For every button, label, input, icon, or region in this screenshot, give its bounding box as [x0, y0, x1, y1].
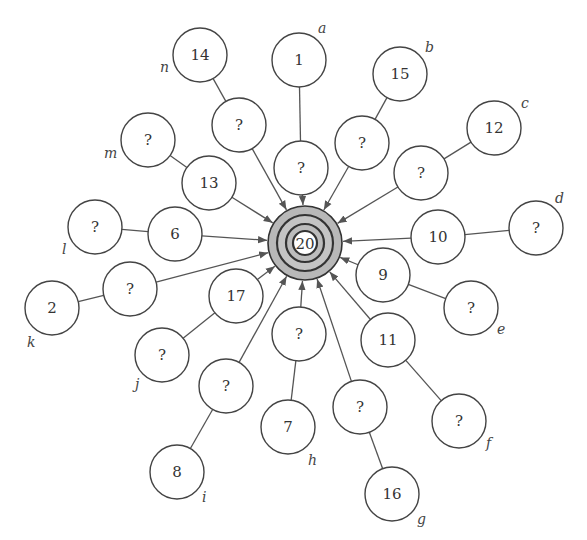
graph-node-nd[interactable]: ? — [509, 201, 563, 255]
arrow-inc-to-hub — [338, 187, 398, 223]
letter-label-n: n — [160, 59, 169, 75]
graph-node-n13[interactable]: 13 — [182, 156, 236, 210]
graph-node-n1[interactable]: 1 — [272, 33, 326, 87]
letter-label-e: e — [497, 321, 505, 337]
graph-node-n7[interactable]: 7 — [261, 400, 315, 454]
letter-label-m: m — [104, 145, 117, 161]
node-label: 1 — [294, 51, 304, 69]
node-label: 8 — [172, 463, 182, 481]
edge-nm-n13 — [170, 156, 187, 168]
graph-node-inb[interactable]: ? — [335, 116, 389, 170]
node-label: ? — [235, 116, 243, 134]
arrow-n9-to-hub — [340, 257, 358, 264]
arrow-n17-to-hub — [257, 266, 274, 279]
edge-n8-ini — [190, 409, 212, 448]
graph-node-n10[interactable]: 10 — [411, 210, 465, 264]
node-label: ? — [91, 218, 99, 236]
graph-node-n17[interactable]: 17 — [209, 269, 263, 323]
graph-node-inh[interactable]: ? — [272, 307, 326, 361]
graph-node-n11[interactable]: 11 — [361, 313, 415, 367]
graph-node-ini[interactable]: ? — [199, 359, 253, 413]
edge-ne-n9 — [408, 284, 445, 298]
node-label: ? — [295, 325, 303, 343]
edge-nd-n10 — [465, 230, 509, 234]
graph-node-inc[interactable]: ? — [394, 146, 448, 200]
graph-node-ne[interactable]: ? — [444, 281, 498, 335]
node-label: ? — [126, 280, 134, 298]
node-label: ? — [297, 159, 305, 177]
graph-node-n9[interactable]: 9 — [356, 248, 410, 302]
graph-node-n12[interactable]: 12 — [467, 101, 521, 155]
edge-n12-inc — [444, 142, 471, 159]
node-label: ? — [158, 346, 166, 364]
arrow-n10-to-hub — [343, 238, 411, 241]
node-label: 17 — [226, 287, 245, 305]
node-label: ? — [455, 412, 463, 430]
letter-label-k: k — [27, 334, 35, 350]
letter-label-i: i — [202, 489, 206, 505]
node-label: 7 — [283, 418, 293, 436]
node-label: 16 — [382, 485, 401, 503]
graph-node-nl[interactable]: ? — [68, 200, 122, 254]
graph-node-nf[interactable]: ? — [432, 394, 486, 448]
graph-node-inn[interactable]: ? — [212, 98, 266, 152]
hub-node[interactable]: 20 — [268, 206, 342, 280]
node-label: 13 — [199, 174, 218, 192]
edge-nl-n6 — [122, 229, 148, 231]
graph-node-nj[interactable]: ? — [135, 328, 189, 382]
letter-label-l: l — [62, 241, 66, 257]
node-label: 10 — [428, 228, 447, 246]
letter-label-h: h — [308, 452, 317, 468]
hub-graph-diagram: 20 1411512?????13?6?109?11?2?17??8?7?16 … — [0, 0, 587, 540]
node-label: ? — [356, 398, 364, 416]
edge-n2-ink — [78, 295, 104, 301]
letter-label-b: b — [425, 39, 434, 55]
graph-node-n14[interactable]: 14 — [173, 28, 227, 82]
letter-label-c: c — [521, 95, 529, 111]
hub-label: 20 — [295, 235, 314, 253]
node-label: ? — [417, 164, 425, 182]
node-label: 2 — [47, 299, 57, 317]
graph-node-n16[interactable]: 16 — [365, 467, 419, 521]
node-label: ? — [358, 134, 366, 152]
arrow-ina-to-hub — [302, 195, 303, 205]
edge-nf-n11 — [406, 360, 441, 400]
letter-label-d: d — [555, 190, 564, 206]
node-label: ? — [467, 299, 475, 317]
node-label: 9 — [378, 266, 388, 284]
node-label: 14 — [190, 46, 209, 64]
edge-n15-inb — [375, 98, 387, 120]
edge-n16-ing — [369, 432, 382, 468]
letter-label-g: g — [417, 511, 426, 527]
edge-n14-inn — [213, 79, 226, 102]
node-label: ? — [144, 131, 152, 149]
graph-node-ing[interactable]: ? — [333, 380, 387, 434]
graph-node-ina[interactable]: ? — [274, 141, 328, 195]
graph-node-n8[interactable]: 8 — [150, 445, 204, 499]
edge-nj-n17 — [183, 313, 215, 338]
edge-n7-inh — [291, 361, 296, 400]
letter-label-a: a — [318, 20, 326, 36]
graph-node-n6[interactable]: 6 — [148, 207, 202, 261]
node-label: ? — [222, 377, 230, 395]
node-label: 11 — [378, 331, 397, 349]
graph-node-ink[interactable]: ? — [103, 262, 157, 316]
graph-node-n2[interactable]: 2 — [25, 281, 79, 335]
arrow-n6-to-hub — [202, 236, 267, 241]
letter-label-j: j — [132, 376, 140, 392]
edge-n1-ina — [299, 87, 300, 141]
node-label: 6 — [170, 225, 180, 243]
graph-node-nm[interactable]: ? — [121, 113, 175, 167]
graph-node-n15[interactable]: 15 — [373, 47, 427, 101]
letter-label-f: f — [485, 435, 494, 451]
node-label: 12 — [484, 119, 503, 137]
node-label: 15 — [390, 65, 409, 83]
arrow-inh-to-hub — [301, 281, 303, 307]
arrow-n13-to-hub — [232, 197, 273, 223]
node-label: ? — [532, 219, 540, 237]
